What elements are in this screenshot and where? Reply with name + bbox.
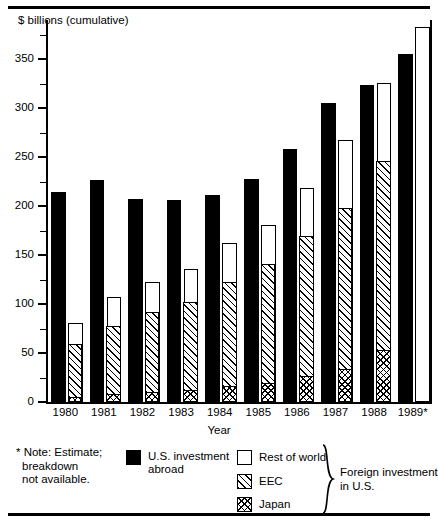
bar-us-investment-abroad (283, 149, 298, 402)
legend-label-us-investment-line1: U.S. investment (148, 450, 229, 463)
bar-us-investment-abroad (244, 179, 259, 402)
y-tick-label: 200 (2, 200, 34, 212)
brace-icon (322, 444, 336, 514)
bar-segment-eec (222, 282, 237, 387)
x-tick-label: 1985 (239, 406, 278, 418)
x-tick-label: 1981 (85, 406, 124, 418)
bar-segment-eec (106, 326, 121, 395)
top-rule (8, 6, 430, 9)
bar-foreign-investment-in-us (222, 243, 237, 402)
x-tick-label: 1983 (162, 406, 201, 418)
legend-swatch-eec (237, 474, 252, 489)
bar-foreign-investment-in-us (300, 188, 315, 402)
bar-us-investment-abroad (51, 192, 66, 402)
bar-foreign-investment-in-us (415, 27, 430, 402)
note-line-1: * Note: Estimate; (16, 446, 126, 460)
legend-swatch-rest-of-world (237, 450, 252, 465)
y-tick-label: 250 (2, 151, 34, 163)
bar-segment-eec (183, 302, 198, 391)
bar-foreign-investment-in-us (68, 323, 83, 402)
bar-us-investment-abroad (321, 103, 336, 402)
bar-segment-eec (299, 236, 314, 376)
bar-segment-japan (183, 389, 198, 402)
bar-foreign-investment-in-us (107, 297, 122, 402)
bar-foreign-investment-in-us (338, 140, 353, 403)
x-tick-label: 1984 (200, 406, 239, 418)
note-line-2: breakdown (16, 460, 126, 474)
bar-us-investment-abroad (167, 200, 182, 402)
bar-foreign-investment-in-us (145, 282, 160, 402)
x-tick-label: 1980 (46, 406, 85, 418)
x-axis-title: Year (0, 424, 438, 436)
legend-label-japan: Japan (259, 498, 290, 511)
bar-segment-japan (338, 369, 353, 403)
bar-us-investment-abroad (90, 180, 105, 402)
bar-segment-eec (261, 264, 276, 384)
x-tick-label: 1989* (393, 406, 432, 418)
y-tick-label: 50 (2, 347, 34, 359)
x-tick-label: 1988 (355, 406, 394, 418)
legend-swatch-japan (237, 497, 252, 512)
plot-area (46, 20, 432, 402)
legend-label-rest-of-world: Rest of world (259, 451, 326, 464)
legend-swatch-us-investment (126, 450, 141, 465)
bar-us-investment-abroad (398, 54, 413, 402)
bracket-label-line1: Foreign investment (340, 466, 438, 480)
bar-segment-japan (299, 376, 314, 403)
bar-foreign-investment-in-us (377, 83, 392, 402)
legend-label-us-investment-line2: abroad (148, 463, 184, 476)
bracket-label: Foreign investment in U.S. (340, 466, 438, 493)
bar-segment-eec (376, 161, 391, 351)
legend-label-eec: EEC (259, 475, 283, 488)
chart-figure: $ billions (cumulative) 0501001502002503… (0, 0, 438, 526)
bar-us-investment-abroad (128, 199, 143, 402)
bar-us-investment-abroad (205, 195, 220, 402)
bracket-label-line2: in U.S. (340, 480, 438, 494)
y-tick-label: 350 (2, 53, 34, 65)
bar-segment-eec (338, 208, 353, 370)
bar-us-investment-abroad (360, 85, 375, 402)
bar-segment-japan (261, 382, 276, 402)
bar-segment-eec (145, 312, 160, 393)
bottom-rule (8, 513, 430, 516)
x-tick-label: 1982 (123, 406, 162, 418)
y-tick-label: 300 (2, 102, 34, 114)
bar-segment-japan (376, 350, 391, 402)
note-line-3: not available. (16, 473, 126, 487)
bar-segment-eec (68, 344, 83, 397)
y-tick-label: 0 (2, 396, 34, 408)
estimate-note: * Note: Estimate; breakdown not availabl… (16, 446, 126, 487)
bar-segment-japan (145, 391, 160, 402)
x-tick-label: 1987 (316, 406, 355, 418)
bar-segment-japan (222, 385, 237, 402)
x-tick-label: 1986 (278, 406, 317, 418)
y-tick-label: 150 (2, 249, 34, 261)
x-axis-line (46, 402, 432, 404)
bar-foreign-investment-in-us (261, 225, 276, 402)
y-tick-label: 100 (2, 298, 34, 310)
bar-foreign-investment-in-us (184, 269, 199, 402)
